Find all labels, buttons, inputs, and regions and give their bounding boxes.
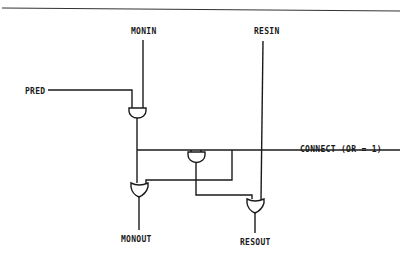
- and-gate-pred-monin-icon: [129, 108, 146, 118]
- label-pred: PRED: [25, 87, 45, 96]
- label-resin: RESIN: [254, 27, 280, 36]
- top-rule: [2, 8, 400, 11]
- label-monin: MONIN: [131, 27, 157, 36]
- or-gate-monout-icon: [131, 183, 148, 197]
- wire-pred: [48, 90, 132, 108]
- label-resout: RESOUT: [240, 238, 271, 247]
- label-monout: MONOUT: [121, 235, 152, 244]
- and-gate-connect-icon: [188, 152, 205, 163]
- logic-diagram: MONIN RESIN PRED CONNECT (OR = 1) MONOUT…: [0, 0, 401, 267]
- or-gate-resout-icon: [247, 199, 264, 213]
- wire-resin: [261, 41, 263, 200]
